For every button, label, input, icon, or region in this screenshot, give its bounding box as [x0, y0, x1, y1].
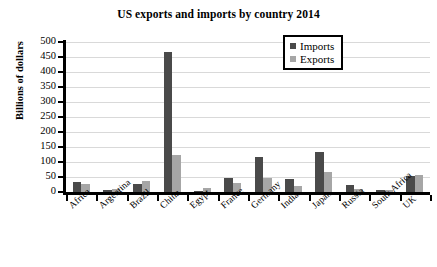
y-axis-tick-label: 450 — [22, 51, 56, 61]
y-axis-tick — [58, 41, 64, 43]
y-axis-tick-label: 50 — [22, 171, 56, 181]
gridline — [66, 72, 430, 73]
legend-entry: Imports — [290, 39, 334, 52]
x-axis-tick — [157, 195, 159, 201]
y-axis-tick — [58, 191, 64, 193]
y-axis-tick-label: 200 — [22, 126, 56, 136]
y-axis-tick-label: 300 — [22, 96, 56, 106]
gridline — [66, 87, 430, 88]
x-axis-tick — [369, 195, 371, 201]
gridline — [66, 117, 430, 118]
bar-imports-china — [164, 52, 173, 192]
x-axis-tick — [96, 195, 98, 201]
legend-swatch-icon — [290, 56, 296, 62]
y-axis-tick — [58, 176, 64, 178]
gridline — [66, 147, 430, 148]
x-axis-tick — [218, 195, 220, 201]
gridline — [66, 162, 430, 163]
x-axis-tick — [187, 195, 189, 201]
y-axis-tick — [58, 131, 64, 133]
gridline — [66, 102, 430, 103]
legend-label: Imports — [300, 40, 334, 52]
gridline — [66, 57, 430, 58]
gridline — [66, 177, 430, 178]
y-axis-tick — [58, 116, 64, 118]
y-axis-tick-label: 100 — [22, 156, 56, 166]
bar-exports-china — [172, 155, 181, 192]
chart-title: US exports and imports by country 2014 — [0, 8, 437, 20]
x-axis-tick — [430, 195, 432, 201]
gridline — [66, 42, 430, 43]
y-axis-tick-label: 250 — [22, 111, 56, 121]
y-axis-tick — [58, 71, 64, 73]
bar-exports-uk — [415, 175, 424, 192]
chart-legend: ImportsExports — [283, 35, 343, 70]
y-axis-tick-label: 0 — [22, 186, 56, 196]
x-axis-tick — [66, 195, 68, 201]
y-axis-tick — [58, 146, 64, 148]
legend-entry: Exports — [290, 52, 334, 65]
x-axis-tick — [309, 195, 311, 201]
y-axis-tick-label: 150 — [22, 141, 56, 151]
x-axis-tick — [127, 195, 129, 201]
y-axis-tick-label: 400 — [22, 66, 56, 76]
gridline — [66, 132, 430, 133]
y-axis-tick-label: 350 — [22, 81, 56, 91]
bar-imports-japan — [315, 152, 324, 192]
legend-swatch-icon — [290, 43, 296, 49]
y-axis-tick — [58, 86, 64, 88]
x-axis-category-label: UK — [401, 194, 418, 211]
chart-container: US exports and imports by country 2014 B… — [0, 0, 437, 267]
y-axis-tick — [58, 101, 64, 103]
bar-imports-germany — [255, 157, 264, 192]
y-axis-tick — [58, 56, 64, 58]
plot-area — [66, 42, 430, 192]
x-axis-tick — [278, 195, 280, 201]
y-axis-tick-label: 500 — [22, 36, 56, 46]
y-axis-tick — [58, 161, 64, 163]
x-axis-tick — [400, 195, 402, 201]
x-axis-tick — [339, 195, 341, 201]
legend-label: Exports — [300, 53, 334, 65]
x-axis-tick — [248, 195, 250, 201]
